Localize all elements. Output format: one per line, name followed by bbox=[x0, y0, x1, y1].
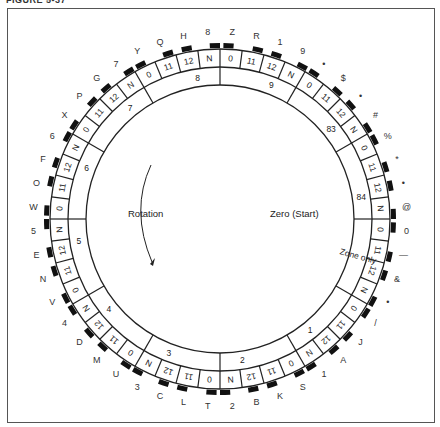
character-label: 5 bbox=[31, 226, 36, 236]
character-label: A bbox=[340, 355, 346, 365]
character-label: X bbox=[62, 110, 68, 120]
punch-mark bbox=[101, 83, 112, 93]
cell-code: 12 bbox=[92, 318, 106, 332]
character-label: 0 bbox=[404, 226, 409, 236]
cell-code: N bbox=[125, 79, 136, 91]
cell-code: 11 bbox=[266, 365, 278, 377]
punch-mark bbox=[135, 60, 146, 69]
character-label: S bbox=[300, 382, 306, 392]
cell-code: N bbox=[70, 143, 82, 153]
character-label: D bbox=[76, 337, 83, 347]
code-cell-ring: 01112N01112N01112N01112N01112N01112N0111… bbox=[50, 49, 390, 389]
character-label: E bbox=[34, 250, 40, 260]
cell-code: 11 bbox=[162, 60, 174, 72]
cell-code: 12 bbox=[366, 265, 379, 277]
cell-code: 0 bbox=[348, 304, 359, 314]
cell-code: 12 bbox=[107, 91, 121, 105]
cell-code: 0 bbox=[207, 374, 213, 384]
character-label: 6 bbox=[50, 131, 55, 141]
punch-mark bbox=[61, 293, 70, 304]
cell-code: 0 bbox=[144, 69, 153, 80]
cell-code: 11 bbox=[334, 319, 348, 332]
cell-code: 0 bbox=[70, 286, 81, 295]
zone-label: 1 bbox=[308, 325, 313, 335]
punch-mark bbox=[84, 327, 94, 338]
cell-code: 12 bbox=[162, 365, 174, 378]
cell-code: N bbox=[80, 303, 92, 314]
cell-code: 12 bbox=[266, 60, 278, 73]
cell-code: 11 bbox=[61, 265, 73, 277]
cell-code: 11 bbox=[246, 55, 257, 67]
character-label: * bbox=[395, 154, 399, 164]
punch-mark bbox=[342, 331, 353, 342]
character-label: T bbox=[205, 401, 211, 411]
character-label: 7 bbox=[114, 59, 119, 69]
cell-code: 0 bbox=[305, 80, 315, 91]
zone-label: 5 bbox=[76, 236, 81, 246]
zero-start-label: Zero (Start) bbox=[270, 208, 319, 219]
character-label: K bbox=[277, 391, 283, 401]
character-label: 9 bbox=[300, 46, 305, 56]
zone-label: Zone only bbox=[339, 246, 378, 266]
cell-code: 11 bbox=[320, 91, 333, 105]
cell-code: 0 bbox=[54, 206, 64, 212]
character-label: • bbox=[386, 297, 389, 307]
cell-code: 11 bbox=[56, 182, 68, 193]
cell-code: 12 bbox=[319, 333, 333, 347]
punch-mark bbox=[223, 43, 233, 48]
character-label: P bbox=[76, 91, 82, 101]
zone-label: 6 bbox=[84, 163, 89, 173]
punch-mark bbox=[294, 369, 305, 378]
character-label: @ bbox=[402, 202, 411, 212]
character-label: N bbox=[40, 274, 47, 284]
cell-code: N bbox=[286, 69, 296, 81]
cell-code: 11 bbox=[366, 161, 378, 173]
cell-code: 0 bbox=[375, 227, 385, 233]
cell-code: 11 bbox=[183, 371, 194, 383]
cell-code: 12 bbox=[61, 161, 74, 173]
character-label: U bbox=[113, 369, 120, 379]
cell-code: 11 bbox=[92, 106, 106, 119]
character-label: 8 bbox=[205, 27, 210, 37]
zone-label: 83 bbox=[326, 124, 336, 134]
cell-code: 12 bbox=[183, 55, 194, 67]
cell-inner-ring bbox=[68, 67, 372, 371]
zone-label: 3 bbox=[166, 348, 171, 358]
character-label: Q bbox=[156, 37, 163, 47]
zone-label: 8 bbox=[195, 73, 200, 83]
character-label: — bbox=[399, 250, 408, 260]
character-label: & bbox=[394, 274, 400, 284]
character-label: C bbox=[157, 391, 164, 401]
character-label: W bbox=[29, 202, 38, 212]
character-label: L bbox=[181, 397, 186, 407]
cell-code: N bbox=[359, 285, 371, 295]
character-label: J bbox=[358, 337, 363, 347]
character-label: / bbox=[374, 318, 377, 328]
zone-label: 2 bbox=[240, 355, 245, 365]
character-label: 1 bbox=[278, 37, 283, 47]
zone-label: 4 bbox=[107, 304, 112, 314]
character-label: • bbox=[359, 91, 362, 101]
zone-label: 7 bbox=[128, 103, 133, 113]
cell-code: 0 bbox=[228, 53, 234, 63]
character-label: F bbox=[40, 154, 46, 164]
zone-label: 84 bbox=[357, 192, 367, 202]
character-label: Z bbox=[229, 27, 235, 37]
rotation-label: Rotation bbox=[128, 208, 163, 219]
character-label: R bbox=[253, 31, 260, 41]
punch-mark bbox=[332, 86, 343, 97]
punch-mark bbox=[210, 43, 220, 48]
character-label: H bbox=[180, 31, 187, 41]
cell-code: 0 bbox=[126, 347, 136, 358]
zone-label: 9 bbox=[269, 80, 274, 90]
zone-ring: 98384Zone only12345678 bbox=[68, 67, 378, 371]
punch-mark bbox=[346, 100, 356, 111]
punch-mark bbox=[328, 345, 339, 355]
character-label: O bbox=[33, 178, 40, 188]
cell-code: 12 bbox=[372, 182, 384, 193]
punch-mark bbox=[97, 341, 108, 352]
zone-inner-ring bbox=[86, 85, 354, 353]
character-label: V bbox=[49, 297, 55, 307]
cell-code: N bbox=[375, 205, 385, 212]
character-label: 1 bbox=[321, 369, 326, 379]
